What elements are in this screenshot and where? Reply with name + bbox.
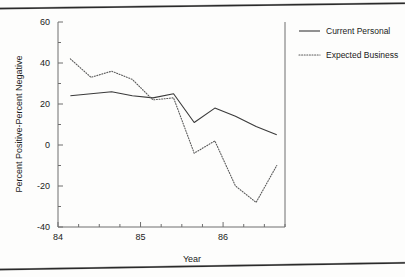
x-axis-major-ticks [58, 222, 223, 227]
chart-page: 6040200-20-40 848586 Year Percent Positi… [0, 0, 405, 277]
y-tick-label: 40 [40, 58, 50, 68]
y-axis-title: Percent Positive-Percent Negative [14, 55, 24, 192]
x-tick-label: 85 [136, 232, 146, 242]
y-tick-label: 0 [45, 140, 50, 150]
series-lines [70, 59, 276, 203]
y-tick-label: 60 [40, 17, 50, 27]
y-tick-label: -40 [37, 222, 50, 232]
x-axis-tick-labels: 848586 [53, 232, 228, 242]
x-tick-label: 84 [53, 232, 63, 242]
x-axis-title: Year [183, 254, 201, 264]
y-axis-tick-labels: 6040200-20-40 [37, 17, 50, 232]
legend: Current Personal Expected Business [299, 26, 398, 60]
y-tick-label: 20 [40, 99, 50, 109]
series-current-personal [70, 92, 276, 135]
x-tick-label: 86 [218, 232, 228, 242]
legend-label-expected-business: Expected Business [326, 50, 398, 60]
legend-label-current-personal: Current Personal [326, 26, 390, 36]
series-expected-business [70, 59, 276, 203]
line-chart: 6040200-20-40 848586 Year Percent Positi… [0, 0, 405, 277]
y-tick-label: -20 [37, 181, 50, 191]
